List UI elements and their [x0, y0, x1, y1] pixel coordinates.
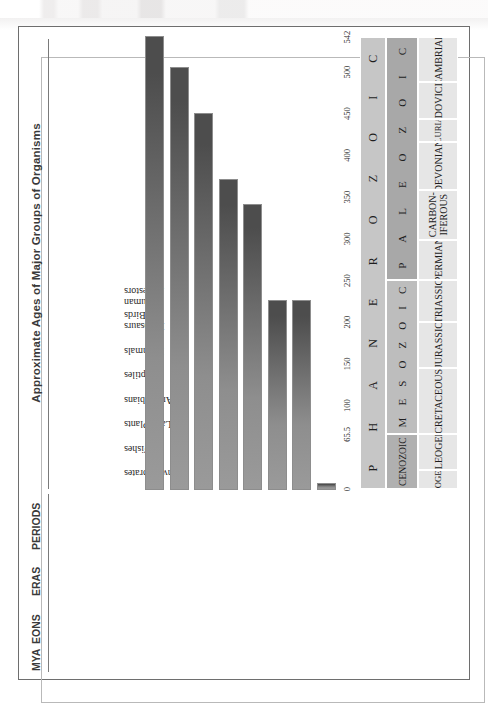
letter: E	[396, 181, 408, 188]
period-name: TRIASSIC	[433, 280, 444, 323]
letter: A	[396, 235, 408, 243]
period-name: CRETACEOUS	[433, 369, 444, 434]
rotated-figure-canvas: MYA EONS ERAS PERIODS Approximate Ages o…	[24, 32, 464, 674]
bar-dinosaurs-birds	[293, 301, 310, 489]
period-silurian: SILURIAN	[418, 119, 458, 142]
period-name: Precambrian	[433, 35, 444, 37]
header-rule-right	[48, 39, 49, 489]
mya-axis: 065.5100150200250300350400450500542	[342, 37, 358, 674]
era-paleozoic: PALEOZOIC	[386, 37, 418, 280]
letter: N	[366, 339, 381, 348]
mya-tick: 542	[342, 31, 352, 44]
letter: Z	[366, 175, 381, 182]
letter-spread: MESOZOIC	[396, 281, 408, 434]
page-title: Approximate Ages of Major Groups of Orga…	[26, 37, 46, 489]
mya-tick: 100	[342, 399, 352, 412]
period-cretaceous: CRETACEOUS	[418, 368, 458, 434]
period-name: CARBON-IFEROUS	[427, 192, 449, 237]
period-name: ORDOVICIAN	[433, 82, 444, 119]
letter: L	[396, 208, 408, 215]
letter: A	[366, 381, 381, 390]
bar-human-ancestors	[318, 484, 335, 489]
letter: R	[366, 257, 381, 265]
column-header-eons: EONS	[26, 614, 46, 644]
mya-tick: 200	[342, 316, 352, 329]
bar-fishes	[171, 68, 188, 489]
column-header-periods: PERIODS	[26, 503, 46, 550]
mya-tick: 300	[342, 232, 352, 245]
letter: Z	[396, 342, 408, 349]
letter: Z	[396, 127, 408, 134]
mya-tick: 400	[342, 149, 352, 162]
period-name: SILURIAN	[433, 119, 444, 142]
mya-tick: 500	[342, 66, 352, 79]
period-ordovician: ORDOVICIAN	[418, 82, 458, 119]
period-devonian: DEVONIAN	[418, 142, 458, 190]
letter: O	[396, 322, 408, 330]
header-rule-left	[48, 494, 49, 672]
mya-tick: 65.5	[342, 427, 352, 442]
mya-tick: 150	[342, 358, 352, 371]
periods-row: NEOGENEPALEOGENECRETACEOUSJURASSICTRIASS…	[418, 37, 458, 674]
period-name: PERMIAN	[433, 240, 444, 280]
letter: I	[396, 75, 408, 79]
letter: M	[396, 418, 408, 428]
eras-row: CENOZOICMESOZOICPALEOZOIC	[386, 37, 418, 674]
period-name: NEOGENE	[433, 470, 444, 489]
letter: E	[396, 399, 408, 406]
letter-spread: PHANEROZOIC	[366, 38, 381, 488]
letter: E	[366, 299, 381, 306]
era-mesozoic: MESOZOIC	[386, 280, 418, 435]
bar-amphibians	[220, 180, 237, 489]
letter: O	[396, 99, 408, 107]
period-name: PALEOGENE	[433, 434, 444, 469]
letter: P	[396, 263, 408, 269]
column-header-mya: MYA	[26, 649, 46, 671]
column-header-eras: ERAS	[26, 567, 46, 596]
bar-mammals	[269, 301, 286, 489]
period-name: DEVONIAN	[433, 142, 444, 190]
period-cambrian: CAMBRIAN	[418, 37, 458, 82]
letter: I	[396, 306, 408, 310]
organism-label-row: InvertebratesFishesLand PlantsAmphibians…	[52, 37, 138, 489]
period-name: JURASSIC	[433, 322, 444, 368]
mya-tick: 0	[342, 487, 352, 491]
eon-proterozoic: Proterozoic	[360, 35, 386, 37]
period-precambrian: Precambrian	[418, 35, 458, 37]
eons-row: PHANEROZOICProterozoic	[360, 37, 386, 674]
period-triassic: TRIASSIC	[418, 280, 458, 323]
period-paleogene: PALEOGENE	[418, 434, 458, 469]
letter: P	[366, 465, 381, 472]
bar-invertebrates	[146, 37, 163, 489]
period-name: CAMBRIAN	[433, 37, 444, 82]
letter: C	[396, 287, 408, 294]
bar-plot-area	[142, 37, 338, 489]
bar-land-plants	[195, 114, 212, 489]
letter: O	[366, 215, 381, 224]
mya-tick: 250	[342, 274, 352, 287]
era-cenozoic: CENOZOIC	[386, 434, 418, 489]
mya-tick: 350	[342, 191, 352, 204]
letter: I	[366, 96, 381, 100]
era-name: CENOZOIC	[397, 437, 408, 486]
letter: S	[396, 381, 408, 387]
letter: O	[396, 153, 408, 161]
letter: O	[396, 361, 408, 369]
period-carboniferous: CARBON-IFEROUS	[418, 190, 458, 240]
eon-phanerozoic: PHANEROZOIC	[360, 37, 386, 489]
geologic-timescale-table: 065.5100150200250300350400450500542 PHAN…	[342, 37, 462, 674]
mya-tick: 450	[342, 107, 352, 120]
period-neogene: NEOGENE	[418, 470, 458, 489]
bar-reptiles	[244, 205, 261, 489]
period-permian: PERMIAN	[418, 240, 458, 280]
letter: H	[366, 423, 381, 432]
eon-name: Proterozoic	[368, 35, 379, 37]
letter: C	[396, 48, 408, 55]
period-jurassic: JURASSIC	[418, 322, 458, 368]
chart-title-banner: Approximate Ages of Major Groups of Orga…	[26, 37, 46, 489]
letter: C	[366, 55, 381, 63]
letter: O	[366, 133, 381, 142]
letter-spread: PALEOZOIC	[396, 38, 408, 279]
